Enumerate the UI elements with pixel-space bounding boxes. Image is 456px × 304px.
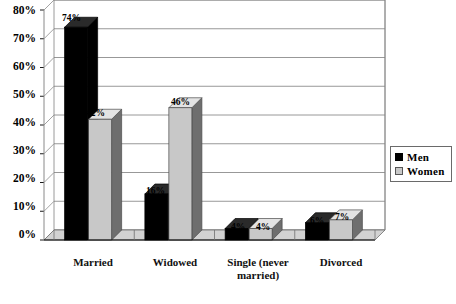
bar-side-face bbox=[192, 98, 202, 240]
y-tick-label-10: 10% bbox=[0, 200, 36, 212]
axis-tick bbox=[44, 29, 54, 39]
y-tick-label-50: 50% bbox=[0, 88, 36, 100]
value-label-men-divorced: 6% bbox=[310, 216, 324, 226]
bar-side-face bbox=[112, 109, 122, 240]
legend-item-women: Women bbox=[395, 164, 445, 178]
y-tick-label-0: 0% bbox=[0, 228, 36, 240]
value-label-women-married: 42% bbox=[86, 108, 105, 118]
bar-front-face bbox=[65, 27, 88, 240]
legend-item-men: Men bbox=[395, 150, 445, 164]
chart-legend: Men Women bbox=[390, 146, 452, 182]
y-tick-label-60: 60% bbox=[0, 60, 36, 72]
legend-label-men: Men bbox=[407, 151, 429, 163]
axis-tick bbox=[44, 58, 54, 68]
axis-tick bbox=[44, 144, 54, 154]
legend-swatch-men bbox=[395, 153, 403, 161]
value-label-men-married: 74% bbox=[62, 13, 81, 23]
bar-chart: 80% 70% 60% 50% 40% 30% 20% 10% 0% Marri… bbox=[0, 0, 456, 304]
y-tick-label-30: 30% bbox=[0, 144, 36, 156]
axis-tick bbox=[44, 0, 54, 10]
bar-front-face bbox=[329, 220, 352, 240]
bar-front-face bbox=[89, 119, 112, 240]
bar-front-face bbox=[169, 108, 192, 240]
x-tick-label-single: Single (never married) bbox=[212, 256, 304, 282]
y-tick-label-20: 20% bbox=[0, 172, 36, 184]
axis-tick bbox=[44, 115, 54, 125]
value-label-women-single: 4% bbox=[256, 222, 270, 232]
value-label-women-divorced: 7% bbox=[335, 212, 349, 222]
legend-swatch-women bbox=[395, 167, 403, 175]
y-tick-label-80: 80% bbox=[0, 4, 36, 16]
x-tick-label-married: Married bbox=[48, 256, 138, 269]
value-label-men-widowed: 16% bbox=[146, 186, 165, 196]
y-tick-label-40: 40% bbox=[0, 116, 36, 128]
axis-tick bbox=[44, 173, 54, 183]
bar-front-face bbox=[145, 194, 168, 240]
legend-label-women: Women bbox=[407, 165, 445, 177]
value-label-women-widowed: 46% bbox=[171, 97, 190, 107]
axis-tick bbox=[44, 201, 54, 211]
x-tick-label-divorced: Divorced bbox=[296, 256, 386, 269]
y-tick-label-70: 70% bbox=[0, 32, 36, 44]
axis-tick bbox=[44, 86, 54, 96]
value-label-men-single: 4% bbox=[231, 222, 245, 232]
x-tick-label-widowed: Widowed bbox=[130, 256, 220, 269]
